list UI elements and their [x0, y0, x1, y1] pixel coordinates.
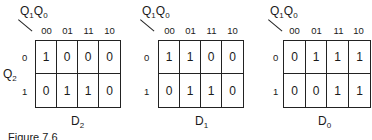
col-header: 11	[201, 25, 222, 36]
cell: 0	[159, 74, 180, 107]
cell: 1	[57, 74, 78, 107]
kmap-d0: Q1Q0 00 01 11 10 0 1 0 1 1 1 0 0 1 1 D0	[247, 0, 372, 140]
col-header: 10	[222, 25, 243, 36]
row-header: 0	[144, 52, 149, 63]
d-sub: 2	[80, 121, 84, 130]
kmap-grid: 1 0 0 0 0 1 1 0	[35, 40, 121, 108]
d-letter: D	[71, 114, 80, 128]
cell: 0	[306, 74, 327, 107]
cell: 0	[99, 74, 120, 107]
q-letter: Q	[34, 4, 43, 18]
cell: 1	[349, 74, 370, 107]
q-letter: Q	[142, 4, 151, 18]
row-header: 1	[144, 86, 149, 97]
q0-sub: 0	[165, 11, 169, 20]
col-header: 01	[57, 25, 78, 36]
cell: 0	[284, 74, 306, 107]
cell: 0	[57, 41, 78, 74]
d-sub: 1	[204, 121, 208, 130]
column-variables: Q1Q0	[270, 4, 298, 20]
q0-sub: 0	[293, 11, 297, 20]
q-letter: Q	[20, 4, 29, 18]
col-header: 00	[36, 25, 57, 36]
row-header: 0	[22, 52, 27, 63]
cell: 1	[306, 41, 327, 74]
col-header: 01	[306, 25, 327, 36]
cell: 1	[159, 41, 180, 74]
cell: 1	[180, 74, 201, 107]
row-header: 1	[22, 86, 27, 97]
cell: 1	[78, 74, 99, 107]
cell: 1	[327, 41, 349, 74]
col-header: 11	[328, 25, 349, 36]
cell: 1	[180, 41, 201, 74]
d-letter: D	[195, 114, 204, 128]
cell: 0	[201, 41, 222, 74]
cell: 1	[327, 74, 349, 107]
cell: 0	[36, 74, 57, 107]
figure-caption: Figure 7.6	[8, 131, 58, 140]
col-header: 00	[159, 25, 180, 36]
kmap-grid: 1 1 0 0 0 1 1 0	[158, 40, 244, 108]
cell: 1	[201, 74, 222, 107]
map-label: D0	[318, 114, 331, 130]
map-label: D2	[71, 114, 84, 130]
cell: 1	[36, 41, 57, 74]
diagonal-divider	[140, 19, 155, 31]
q-letter: Q	[156, 4, 165, 18]
col-header: 10	[348, 25, 369, 36]
col-header: 01	[180, 25, 201, 36]
q-letter: Q	[3, 67, 12, 81]
column-variables: Q1Q0	[142, 4, 170, 20]
col-header: 00	[284, 25, 305, 36]
row-variable: Q2	[3, 67, 17, 83]
q-letter: Q	[284, 4, 293, 18]
cell: 1	[349, 41, 370, 74]
d-sub: 0	[327, 121, 331, 130]
col-header: 11	[78, 25, 99, 36]
kmap-grid: 0 1 1 1 0 0 1 1	[283, 40, 371, 108]
q2-sub: 2	[12, 74, 16, 83]
row-header: 0	[273, 52, 278, 63]
q-letter: Q	[270, 4, 279, 18]
col-header: 10	[99, 25, 120, 36]
q0-sub: 0	[43, 11, 47, 20]
cell: 0	[99, 41, 120, 74]
row-header: 1	[273, 86, 278, 97]
cell: 0	[78, 41, 99, 74]
column-variables: Q1Q0	[20, 4, 48, 20]
cell: 0	[222, 41, 243, 74]
cell: 0	[284, 41, 306, 74]
diagonal-divider	[268, 19, 283, 31]
d-letter: D	[318, 114, 327, 128]
map-label: D1	[195, 114, 208, 130]
cell: 0	[222, 74, 243, 107]
kmap-d2: Q1Q0 00 01 11 10 0 1 Q2 1 0 0 0 0 1 1 0 …	[0, 0, 125, 140]
kmap-d1: Q1Q0 00 01 11 10 0 1 1 1 0 0 0 1 1 0 D1	[122, 0, 247, 140]
diagonal-divider	[18, 19, 33, 31]
